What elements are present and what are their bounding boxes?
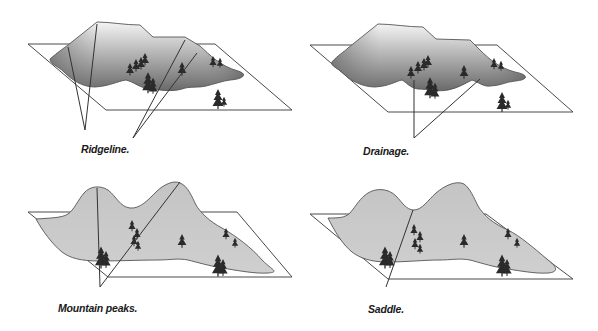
caption-ridgeline: Ridgeline. — [81, 143, 129, 155]
panel-drainage — [310, 24, 573, 138]
terrain-diagram — [0, 0, 598, 331]
caption-mountain-peaks: Mountain peaks. — [58, 302, 137, 314]
caption-drainage: Drainage. — [363, 145, 409, 157]
panel-ridgeline — [28, 22, 292, 138]
panel-mountain-peaks — [28, 182, 292, 287]
mountain-mass — [328, 183, 556, 273]
caption-saddle: Saddle. — [368, 303, 404, 315]
panel-saddle — [310, 183, 573, 287]
mountain-mass — [36, 182, 274, 273]
